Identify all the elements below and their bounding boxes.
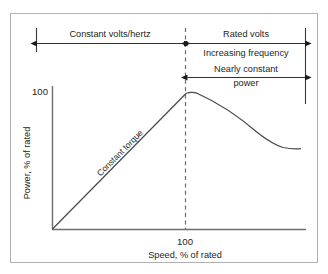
x-axis-title-group: Speed, % of rated	[148, 250, 222, 260]
x-axis-title: Speed, % of rated	[148, 250, 222, 260]
motor-power-speed-figure: Constant volts/hertz Rated volts Increas…	[0, 0, 328, 274]
figure-background	[0, 0, 328, 274]
nearly-constant-power-label-line1: Nearly constant	[214, 64, 278, 74]
y-axis-tick-group: 100	[32, 86, 48, 97]
nearly-constant-power-label-line2: power	[233, 78, 258, 88]
annotation-increasing-frequency: Increasing frequency	[203, 48, 289, 58]
constant-volts-per-hertz-label: Constant volts/hertz	[69, 29, 151, 39]
x-axis-tick-group: 100	[177, 236, 193, 247]
rated-volts-label: Rated volts	[223, 29, 269, 39]
y-tick-label-100: 100	[32, 86, 48, 97]
y-axis-title-group: Power, % of rated	[22, 127, 32, 200]
increasing-frequency-label: Increasing frequency	[203, 48, 289, 58]
x-tick-label-100: 100	[177, 236, 193, 247]
y-axis-title: Power, % of rated	[22, 127, 32, 200]
